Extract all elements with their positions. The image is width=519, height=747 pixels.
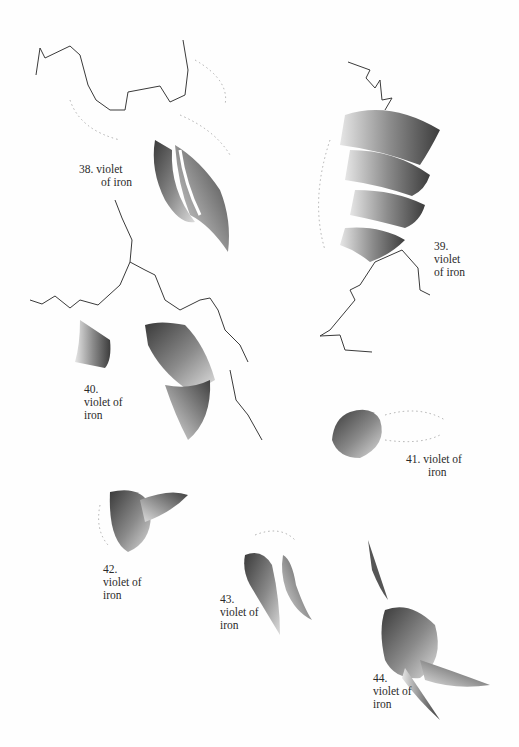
fig38-dots: [70, 60, 230, 155]
caption-line: iron: [103, 589, 142, 602]
fig38-leaf: [154, 140, 229, 252]
caption-line: iron: [220, 619, 259, 632]
fig38-outline: [36, 40, 188, 110]
caption-line: 38. violet: [79, 163, 132, 176]
caption-line: 41. violet of: [406, 453, 462, 466]
fig40-strokes: [75, 320, 215, 440]
figure-43-caption: 43. violet of iron: [220, 593, 259, 632]
caption-line: 42.: [103, 563, 142, 576]
caption-line: violet of: [84, 396, 123, 409]
caption-line: iron: [84, 409, 123, 422]
caption-line: 43.: [220, 593, 259, 606]
fig39-strokes: [340, 110, 440, 262]
caption-line: violet: [434, 253, 465, 266]
caption-line: of iron: [434, 266, 465, 279]
book-page: 38. violet of iron 39. violet of iron 40…: [0, 0, 519, 747]
figure-42-caption: 42. violet of iron: [103, 563, 142, 602]
brush-stroke-illustrations: [0, 0, 519, 747]
figure-39-caption: 39. violet of iron: [434, 240, 465, 279]
caption-line: violet of: [220, 606, 259, 619]
caption-line: violet of: [373, 685, 412, 698]
figure-41-caption: 41. violet of iron: [406, 453, 462, 479]
figure-44-caption: 44. violet of iron: [373, 672, 412, 711]
caption-line: iron: [373, 698, 412, 711]
caption-line: 40.: [84, 383, 123, 396]
fig42-strokes: [110, 490, 188, 552]
caption-line: violet of: [103, 576, 142, 589]
caption-line: 39.: [434, 240, 465, 253]
fig41-stroke: [332, 410, 382, 458]
figure-38-caption: 38. violet of iron: [79, 163, 132, 189]
caption-line: of iron: [79, 176, 132, 189]
caption-line: 44.: [373, 672, 412, 685]
caption-line: iron: [406, 466, 462, 479]
figure-40-caption: 40. violet of iron: [84, 383, 123, 422]
